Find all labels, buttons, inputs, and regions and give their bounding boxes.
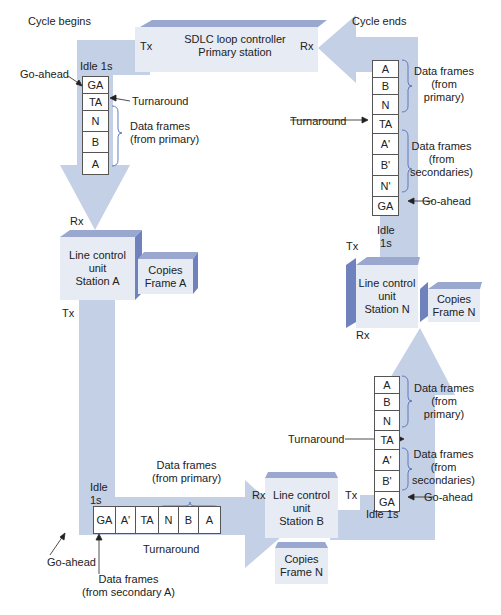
bottom-frame-stack: GA A' TA N B A — [93, 506, 221, 534]
station-n-box: Line control unit Station N — [356, 265, 418, 328]
controller-title-line1: SDLC loop controller — [175, 33, 295, 46]
bottom-turnaround-label: Turnaround — [143, 543, 199, 556]
frame-cell: N' — [373, 176, 398, 197]
frame-cell: N — [83, 111, 108, 132]
frame-cell: A' — [375, 450, 399, 471]
frame-cell: N — [375, 411, 399, 431]
station-n-tx-label: Tx — [346, 240, 358, 253]
right-bottom-data-frames-secondaries-label: Data frames (from secondaries) — [412, 448, 475, 487]
frame-cell: GA — [94, 507, 116, 533]
right-top-idle-label: Idle 1s — [377, 224, 395, 250]
station-n-rx-label: Rx — [356, 329, 369, 342]
frame-cell: N — [159, 507, 179, 533]
cycle-begins-label: Cycle begins — [28, 15, 91, 28]
frame-cell: B' — [375, 471, 399, 492]
frame-cell: B — [373, 78, 398, 95]
frame-cell: A' — [116, 507, 136, 533]
frame-cell: B — [83, 132, 108, 153]
frame-cell: GA — [83, 77, 108, 94]
station-b-rx-label: Rx — [252, 489, 265, 502]
right-top-frame-stack: A B N TA A' B' N' GA — [372, 60, 399, 216]
station-n-copies-box: Copies Frame N — [428, 289, 480, 322]
frame-cell: N — [373, 95, 398, 115]
right-top-go-ahead-label: Go-ahead — [422, 195, 471, 208]
frame-cell: A' — [373, 134, 398, 155]
left-top-data-frames-label: Data frames (from primary) — [130, 120, 199, 146]
cycle-ends-label: Cycle ends — [352, 15, 406, 28]
frame-cell: B — [375, 394, 399, 411]
bottom-idle-label: Idle 1s — [90, 481, 108, 507]
bottom-data-frames-secondary-label: Data frames (from secondary A) — [82, 573, 175, 599]
right-bottom-data-frames-primary-label: Data frames (from primary) — [414, 382, 474, 421]
frame-cell: B' — [373, 155, 398, 176]
controller-title: SDLC loop controller Primary station — [175, 33, 295, 59]
left-top-frame-stack: GA TA N B A — [82, 76, 109, 175]
right-bottom-turnaround-label: Turnaround — [288, 433, 344, 446]
pipe-right-top — [318, 15, 418, 258]
right-bottom-frame-stack: A B N TA A' B' GA — [374, 376, 400, 512]
frame-cell: TA — [83, 94, 108, 111]
station-a-box: Line control unit Station A — [60, 237, 135, 300]
station-b-box: Line control unit Station B — [265, 478, 338, 538]
frame-cell: A — [83, 153, 108, 174]
frame-cell: A — [375, 377, 399, 394]
controller-tx-label: Tx — [140, 40, 152, 53]
left-top-idle-label: Idle 1s — [80, 60, 112, 73]
station-a-copies-box: Copies Frame A — [138, 259, 193, 294]
frame-cell: A — [373, 61, 398, 78]
controller-rx-label: Rx — [300, 40, 313, 53]
bottom-go-ahead-label: Go-ahead — [47, 556, 96, 569]
right-top-turnaround-label: Turnaround — [290, 115, 346, 128]
right-bottom-idle-label: Idle 1s — [366, 508, 398, 521]
controller-title-line2: Primary station — [175, 46, 295, 59]
station-b-copies-box: Copies Frame N — [275, 548, 328, 584]
left-top-go-ahead-label: Go-ahead — [20, 68, 69, 81]
right-top-data-frames-secondaries-label: Data frames (from secondaries) — [410, 140, 473, 179]
station-b-tx-label: Tx — [345, 489, 357, 502]
station-a-rx-label: Rx — [70, 215, 83, 228]
right-bottom-go-ahead-label: Go-ahead — [424, 491, 473, 504]
frame-cell: GA — [373, 197, 398, 215]
controller-top — [140, 20, 327, 27]
left-top-turnaround-label: Turnaround — [132, 95, 188, 108]
right-top-data-frames-primary-label: Data frames (from primary) — [414, 65, 474, 104]
frame-cell: B — [179, 507, 199, 533]
frame-cell: TA — [373, 115, 398, 134]
frame-cell: A — [199, 507, 220, 533]
frame-cell: TA — [375, 431, 399, 450]
bottom-data-frames-primary-label: Data frames (from primary) — [152, 459, 221, 485]
frame-cell: TA — [136, 507, 159, 533]
station-a-tx-label: Tx — [62, 307, 74, 320]
